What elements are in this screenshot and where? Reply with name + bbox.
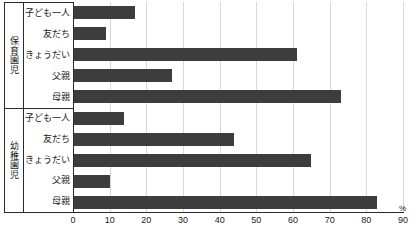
- category-label: 母親: [24, 87, 73, 108]
- x-tick-label-0: 0: [70, 214, 75, 226]
- category-label: 父親: [24, 66, 73, 87]
- category-label: きょうだい: [24, 45, 73, 66]
- category-label: 母親: [24, 191, 73, 212]
- x-tick-label-70: 70: [325, 214, 335, 226]
- bar-幼稚園児-子ども一人: [73, 112, 124, 125]
- bar-row: [73, 192, 403, 213]
- bar-保育園児-母親: [73, 90, 341, 103]
- x-axis-tick-labels: 0102030405060708090: [0, 214, 420, 228]
- group-block-1: 保育園児 子ども一人 友だち きょうだい 父親 母親: [5, 3, 73, 108]
- x-tick-label-40: 40: [215, 214, 225, 226]
- category-label: きょうだい: [24, 150, 73, 171]
- bar-幼稚園児-母親: [73, 196, 377, 209]
- category-label: 友だち: [24, 129, 73, 150]
- x-tick-label-90: 90: [398, 214, 408, 226]
- bar-row: [73, 129, 403, 150]
- x-tick-label-50: 50: [251, 214, 261, 226]
- bar-保育園児-父親: [73, 69, 172, 82]
- group-1-item-labels: 子ども一人 友だち きょうだい 父親 母親: [24, 3, 73, 108]
- bar-幼稚園児-きょうだい: [73, 154, 311, 167]
- group-label-2-text: 幼稚園児: [10, 141, 19, 179]
- category-label: 友だち: [24, 24, 73, 45]
- bar-保育園児-子ども一人: [73, 6, 135, 19]
- x-tick-label-60: 60: [288, 214, 298, 226]
- group-block-2: 幼稚園児 子ども一人 友だち きょうだい 父親 母親: [5, 108, 73, 213]
- bar-保育園児-きょうだい: [73, 48, 297, 61]
- category-label: 父親: [24, 171, 73, 192]
- bar-row: [73, 86, 403, 107]
- x-axis-line: [73, 212, 404, 213]
- bar-row: [73, 107, 403, 128]
- x-tick-label-10: 10: [105, 214, 115, 226]
- bar-row: [73, 2, 403, 23]
- bar-保育園児-友だち: [73, 27, 106, 40]
- bar-row: [73, 150, 403, 171]
- category-label: 子ども一人: [24, 109, 73, 130]
- group-2-item-labels: 子ども一人 友だち きょうだい 父親 母親: [24, 109, 73, 213]
- bar-row: [73, 171, 403, 192]
- x-tick-label-30: 30: [178, 214, 188, 226]
- group-label-2: 幼稚園児: [5, 109, 24, 213]
- bar-chart: 保育園児 子ども一人 友だち きょうだい 父親 母親 幼稚園児 子ども一人 友だ…: [0, 0, 420, 238]
- x-tick-label-20: 20: [141, 214, 151, 226]
- bar-幼稚園児-父親: [73, 175, 110, 188]
- group-label-1: 保育園児: [5, 3, 24, 108]
- category-label: 子ども一人: [24, 3, 73, 24]
- bar-row: [73, 65, 403, 86]
- bar-row: [73, 23, 403, 44]
- bar-row: [73, 44, 403, 65]
- group-label-1-text: 保育園児: [10, 36, 19, 74]
- plot-area: [73, 2, 403, 213]
- x-axis-unit-label: %: [399, 204, 406, 214]
- bar-series: [73, 2, 403, 213]
- gridline-90: [403, 2, 404, 213]
- category-label-table: 保育園児 子ども一人 友だち きょうだい 父親 母親 幼稚園児 子ども一人 友だ…: [4, 2, 74, 213]
- x-tick-label-80: 80: [361, 214, 371, 226]
- bar-幼稚園児-友だち: [73, 133, 234, 146]
